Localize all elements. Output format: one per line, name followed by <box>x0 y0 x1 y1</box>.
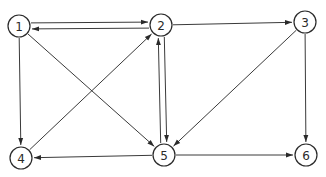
node-2: 2 <box>150 14 172 36</box>
node-6: 6 <box>295 144 317 166</box>
edge-2-to-5 <box>164 37 166 142</box>
edge-2-to-3 <box>173 22 292 25</box>
edge-1-to-4 <box>19 38 21 145</box>
node-label: 6 <box>302 149 310 163</box>
node-3: 3 <box>294 11 316 33</box>
edge-1-to-5 <box>28 34 154 146</box>
edge-5-to-4 <box>34 155 152 157</box>
node-label: 3 <box>301 16 309 30</box>
edge-3-to-5 <box>174 30 297 146</box>
edge-layer <box>19 22 306 158</box>
node-5: 5 <box>153 144 175 166</box>
node-4: 4 <box>10 147 32 169</box>
node-label: 1 <box>15 20 23 34</box>
edge-2-to-1 <box>32 28 149 29</box>
edge-3-to-6 <box>305 34 306 142</box>
node-label: 2 <box>157 19 165 33</box>
node-1: 1 <box>8 15 30 37</box>
edge-1-to-2 <box>31 22 148 23</box>
edge-5-to-2 <box>158 38 160 143</box>
node-layer: 123456 <box>8 11 317 169</box>
directed-graph: 123456 <box>0 0 326 177</box>
node-label: 5 <box>160 149 168 163</box>
node-label: 4 <box>17 152 25 166</box>
